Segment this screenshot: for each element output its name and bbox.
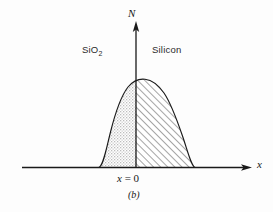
- origin-annotation: x = 0: [117, 173, 139, 184]
- region-label-oxide: SiO2: [82, 45, 102, 57]
- region-label-oxide-text: SiO: [82, 44, 98, 55]
- y-axis-label: N: [128, 8, 135, 19]
- x-axis-label: x: [257, 159, 262, 170]
- origin-annotation-value: = 0: [122, 172, 139, 184]
- figure-caption: (b): [128, 190, 140, 200]
- region-label-silicon: Silicon: [152, 45, 181, 55]
- figure-container: N x SiO2 Silicon x = 0 (b): [0, 0, 273, 212]
- region-label-oxide-subscript: 2: [98, 50, 102, 57]
